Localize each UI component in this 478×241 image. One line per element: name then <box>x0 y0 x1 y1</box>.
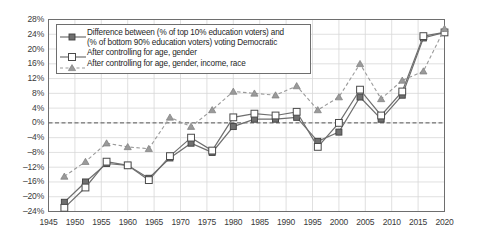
y-tick-label: –4% <box>2 132 44 142</box>
triangle-dashed-line-icon <box>59 59 87 70</box>
legend-item: Difference between (% of top 10% educati… <box>59 28 307 48</box>
education-vote-gap-chart: 28%24%20%16%12%8%4%0%–4%–8%–12%–16%–20%–… <box>0 0 478 241</box>
legend-label-1-line1: After controlling for age, gender <box>87 48 197 57</box>
legend-label-1: After controlling for age, gender <box>87 48 197 58</box>
y-tick-label: 16% <box>2 58 44 68</box>
legend-label-0: Difference between (% of top 10% educati… <box>87 28 284 48</box>
y-tick-label: –24% <box>2 206 44 216</box>
y-tick-label: –8% <box>2 147 44 157</box>
y-tick-label: –16% <box>2 176 44 186</box>
y-tick-label: 8% <box>2 88 44 98</box>
y-tick-label: 24% <box>2 29 44 39</box>
legend-label-2: After controlling for age, gender, incom… <box>87 59 246 69</box>
legend-item: After controlling for age, gender, incom… <box>59 59 307 70</box>
chart-legend: Difference between (% of top 10% educati… <box>56 24 311 74</box>
legend-item: After controlling for age, gender <box>59 48 307 59</box>
legend-label-0-line1: Difference between (% of top 10% educati… <box>87 28 284 37</box>
open-square-line-icon <box>59 48 87 59</box>
y-tick-label: 28% <box>2 14 44 24</box>
legend-label-2-line1: After controlling for age, gender, incom… <box>87 59 246 68</box>
y-tick-label: 4% <box>2 103 44 113</box>
x-tick-label: 2020 <box>429 217 461 227</box>
y-tick-label: 20% <box>2 44 44 54</box>
y-tick-label: 12% <box>2 73 44 83</box>
y-tick-label: 0% <box>2 117 44 127</box>
filled-square-line-icon <box>59 28 87 39</box>
legend-label-0-line2: (% of bottom 90% education voters) votin… <box>87 38 284 48</box>
y-tick-label: –20% <box>2 191 44 201</box>
y-tick-label: –12% <box>2 162 44 172</box>
